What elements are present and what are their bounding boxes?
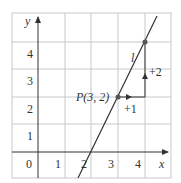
y-tick-3: 3: [27, 74, 33, 88]
x-tick-4: 4: [135, 157, 141, 171]
coordinate-plane: y x 0 1 2 3 4 1 2 3 4 l +1 +2 P(3, 2): [0, 0, 181, 183]
rise-arrowhead-icon: [142, 73, 148, 79]
point-p-label: P(3, 2): [75, 90, 109, 104]
x-tick-3: 3: [108, 157, 114, 171]
y-tick-4: 4: [27, 47, 33, 61]
y-axis-label: y: [24, 14, 31, 28]
y-tick-1: 1: [27, 129, 33, 143]
y-tick-2: 2: [27, 102, 33, 116]
rise-label: +2: [149, 65, 162, 79]
run-arrowhead-icon: [126, 94, 132, 100]
run-label: +1: [124, 102, 137, 116]
x-tick-1: 1: [55, 157, 61, 171]
x-tick-0: 0: [26, 157, 32, 171]
point-q: [143, 40, 148, 45]
x-axis-label: x: [158, 157, 165, 171]
point-p: [116, 95, 121, 100]
